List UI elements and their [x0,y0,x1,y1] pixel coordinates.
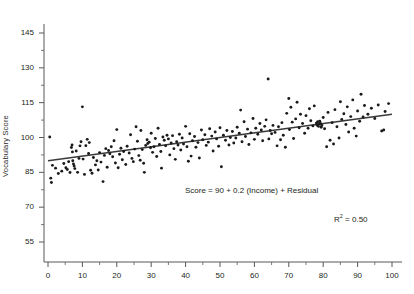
data-point [83,173,86,176]
data-point [342,112,345,115]
data-point [274,131,277,134]
data-point [301,122,304,125]
data-point [219,126,222,129]
data-point [358,120,361,123]
data-point [353,127,356,130]
data-point [263,125,266,128]
data-point [98,151,101,154]
data-point [313,104,316,107]
data-point [276,144,279,147]
data-point [272,124,275,127]
data-point [267,78,270,81]
data-point [258,122,261,125]
data-point [159,150,162,153]
data-point [305,114,308,117]
data-point [66,168,69,171]
data-point [73,165,76,168]
data-point [270,132,273,135]
data-point [129,133,132,136]
data-point [115,128,118,131]
data-point [243,120,246,123]
data-point [49,177,52,180]
data-point [327,111,330,114]
data-point [207,141,210,144]
data-point [236,126,239,129]
data-point [239,109,242,112]
y-tick-label: 115 [8,98,34,107]
data-point [323,127,326,130]
data-point [128,152,131,155]
data-point [253,138,256,141]
data-point [247,143,250,146]
data-point [250,131,253,134]
data-point [225,129,228,132]
data-point [320,124,323,127]
data-point [153,145,156,148]
data-point [241,140,244,143]
x-tick-label: 80 [309,271,337,280]
data-point [210,135,213,138]
data-point [289,106,292,109]
data-point [277,125,280,128]
data-point [231,130,234,133]
data-point [187,160,190,163]
data-point [340,118,343,121]
data-point [227,143,230,146]
data-point [97,169,100,172]
data-point [62,162,65,165]
data-point [114,162,117,165]
scatter-plot-figure: Vocabulary Score 557085100115130145 0102… [0,0,414,294]
data-point [193,135,196,138]
data-point [186,145,189,148]
data-point [377,104,380,107]
data-point [163,139,166,142]
data-point [148,141,151,144]
y-tick-label: 70 [8,202,34,211]
data-point [203,133,206,136]
data-point [75,150,78,153]
x-tick-label: 50 [206,271,234,280]
data-point [121,158,124,161]
data-point [347,130,350,133]
data-point [88,141,91,144]
data-point [370,107,373,110]
data-point [50,181,53,184]
data-point [171,134,174,137]
data-point [194,146,197,149]
data-point [69,171,72,174]
data-point [155,155,158,158]
data-point [298,126,301,129]
data-point [143,171,146,174]
r2-value: = 0.50 [345,215,367,224]
data-point [215,137,218,140]
data-point [191,139,194,142]
data-point [57,172,60,175]
data-point [182,143,185,146]
data-point [71,150,74,153]
data-point [141,148,144,151]
data-point [54,167,57,170]
data-point [73,167,76,170]
data-point [111,155,114,158]
data-point [157,127,160,130]
data-point [252,117,255,120]
data-point [161,136,164,139]
data-point [135,125,138,128]
data-point [167,137,170,140]
data-point [212,150,215,153]
data-point [190,155,193,158]
plot-area [0,0,414,294]
data-point [333,108,336,111]
data-point [299,113,302,116]
data-point [139,159,142,162]
data-point [71,159,74,162]
data-point [329,139,332,142]
data-point [89,169,92,172]
data-point [197,141,200,144]
x-tick-label: 30 [137,271,165,280]
data-point [79,144,82,147]
x-tick-label: 60 [240,271,268,280]
data-point [246,128,249,131]
data-point [382,129,385,132]
data-point [60,170,63,173]
